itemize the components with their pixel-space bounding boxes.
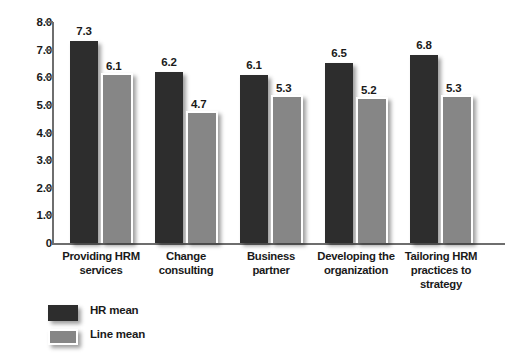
- x-axis-label: Businesspartner: [226, 249, 316, 277]
- x-axis-label-line: organization: [311, 263, 401, 277]
- x-axis-label-line: consulting: [141, 263, 231, 277]
- x-axis-label-line: Providing HRM: [56, 249, 146, 263]
- legend-label: Line mean: [90, 328, 145, 340]
- bar-group: 6.15.3: [240, 22, 305, 243]
- y-axis-tick-label: 0: [10, 237, 52, 249]
- bar-line: [186, 111, 218, 243]
- x-axis-label-line: services: [56, 263, 146, 277]
- bar-chart: 8.07.06.05.04.03.02.01.00 7.36.16.24.76.…: [0, 0, 518, 363]
- x-axis-label-line: partner: [226, 263, 316, 277]
- bar-hr: [410, 55, 438, 243]
- bar-value-label: 4.7: [191, 98, 206, 110]
- bar-value-label: 5.2: [361, 84, 376, 96]
- bar-group: 6.85.3: [410, 22, 475, 243]
- bar-value-label: 6.1: [106, 60, 121, 72]
- x-axis-label-line: Developing the: [311, 249, 401, 263]
- x-axis-label-line: Change: [141, 249, 231, 263]
- bar-line: [356, 97, 388, 243]
- x-axis-label: Providing HRMservices: [56, 249, 146, 277]
- bar-group: 7.36.1: [70, 22, 135, 243]
- bar-hr: [70, 41, 98, 243]
- bar-hr: [240, 75, 268, 244]
- bar-line: [101, 73, 133, 244]
- legend-label: HR mean: [90, 304, 138, 316]
- bar-value-label: 6.2: [161, 56, 176, 68]
- x-axis-line: [52, 243, 505, 245]
- legend-swatch: [48, 305, 78, 321]
- x-axis-label: Tailoring HRMpractices tostrategy: [396, 249, 486, 291]
- bar-group: 6.55.2: [325, 22, 390, 243]
- legend-swatch: [48, 329, 78, 345]
- x-axis-label-line: strategy: [396, 277, 486, 291]
- bar-value-label: 6.1: [246, 59, 261, 71]
- bar-value-label: 6.8: [416, 39, 431, 51]
- bar-line: [271, 95, 303, 243]
- bar-value-label: 6.5: [331, 47, 346, 59]
- x-axis-label-line: Tailoring HRM: [396, 249, 486, 263]
- bar-hr: [155, 72, 183, 243]
- bar-hr: [325, 63, 353, 243]
- bar-value-label: 5.3: [446, 82, 461, 94]
- bar-line: [441, 95, 473, 243]
- x-axis-label-line: practices to: [396, 263, 486, 277]
- x-axis-label: Changeconsulting: [141, 249, 231, 277]
- plot-area: 7.36.16.24.76.15.36.55.26.85.3: [52, 22, 505, 243]
- bar-group: 6.24.7: [155, 22, 220, 243]
- bar-value-label: 5.3: [276, 82, 291, 94]
- x-axis-label: Developing theorganization: [311, 249, 401, 277]
- bar-value-label: 7.3: [76, 25, 91, 37]
- x-axis-label-line: Business: [226, 249, 316, 263]
